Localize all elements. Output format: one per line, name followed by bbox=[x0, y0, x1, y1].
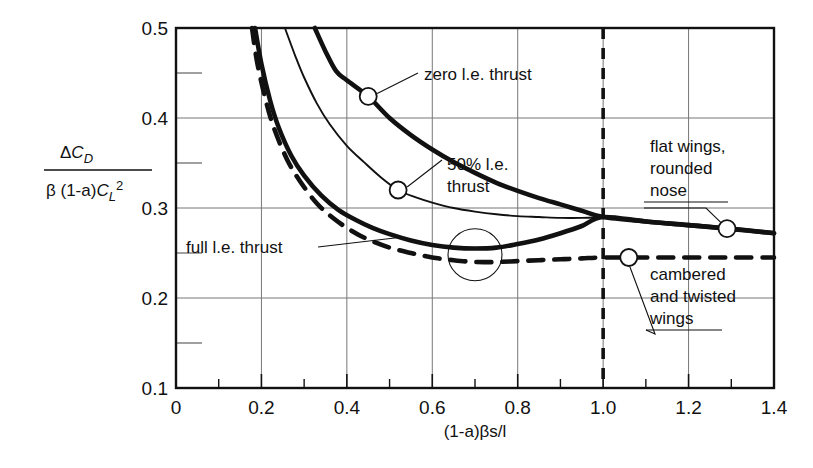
y-tick-labels: 0.10.20.30.40.5 bbox=[142, 18, 169, 399]
x-tick-label: 0.8 bbox=[505, 397, 531, 418]
fifty-le-thrust-label-line1: 50% l.e. bbox=[447, 155, 508, 174]
cl-glyph: C bbox=[96, 181, 109, 200]
c-glyph: C bbox=[71, 143, 84, 162]
cambered-wings-marker bbox=[620, 249, 637, 266]
x-axis-label: (1-a)βs/l bbox=[444, 422, 507, 441]
cl-subscript: L bbox=[109, 189, 116, 204]
x-tick-label: 1.4 bbox=[761, 397, 788, 418]
y-axis-numerator: ΔCD bbox=[60, 143, 93, 166]
cd-subscript: D bbox=[84, 151, 93, 166]
cl-exponent: 2 bbox=[116, 178, 123, 193]
beta-term: β (1-a) bbox=[46, 181, 96, 200]
delta-glyph: Δ bbox=[60, 143, 71, 162]
y-tick-label: 0.1 bbox=[142, 378, 168, 399]
fifty-le-thrust-label-line2: thrust bbox=[447, 177, 490, 196]
x-tick-label: 1.0 bbox=[590, 397, 616, 418]
x-tick-label: 0.2 bbox=[248, 397, 274, 418]
cambered-label-line2: and twisted bbox=[650, 287, 736, 306]
zero-le-thrust-label: zero l.e. thrust bbox=[424, 65, 532, 84]
flat-wings-label-line2: rounded bbox=[650, 159, 712, 178]
x-tick-label: 1.2 bbox=[675, 397, 701, 418]
y-tick-label: 0.3 bbox=[142, 198, 168, 219]
y-tick-label: 0.5 bbox=[142, 18, 168, 39]
full-le-thrust-label: full l.e. thrust bbox=[186, 238, 283, 257]
y-tick-label: 0.4 bbox=[142, 108, 169, 129]
cambered-label-line1: cambered bbox=[650, 265, 726, 284]
x-tick-labels: 00.20.40.60.81.01.21.4 bbox=[171, 397, 788, 418]
x-tick-label: 0 bbox=[171, 397, 182, 418]
y-axis-denominator: β (1-a)CL2 bbox=[46, 178, 123, 204]
fifty-thrust-marker bbox=[390, 182, 407, 199]
y-tick-label: 0.2 bbox=[142, 288, 168, 309]
x-tick-label: 0.6 bbox=[419, 397, 445, 418]
zero-thrust-marker bbox=[360, 88, 377, 105]
flat-wings-label-line3: nose bbox=[650, 181, 687, 200]
chart-svg: 00.20.40.60.81.01.21.4 0.10.20.30.40.5 (… bbox=[0, 0, 813, 468]
y-axis-label: ΔCD β (1-a)CL2 bbox=[44, 143, 152, 204]
cambered-label-line3: wings bbox=[649, 309, 693, 328]
flat-wings-marker bbox=[719, 220, 736, 237]
x-tick-label: 0.4 bbox=[334, 397, 361, 418]
chart-figure: 00.20.40.60.81.01.21.4 0.10.20.30.40.5 (… bbox=[0, 0, 813, 468]
flat-wings-label-line1: flat wings, bbox=[650, 137, 726, 156]
